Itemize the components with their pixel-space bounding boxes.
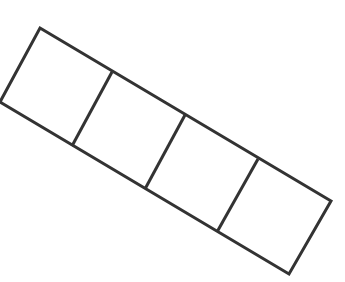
- square-strip-diagram: [0, 0, 345, 282]
